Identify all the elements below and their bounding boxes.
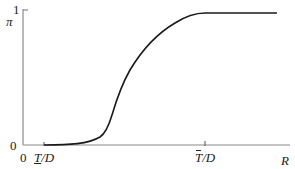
x-tick-label-0: 0 (20, 151, 27, 164)
t-lower-rest: /D (41, 150, 54, 165)
y-tick-label-0: 0 (10, 139, 17, 152)
chart-canvas (0, 0, 295, 169)
t-upper-rest: /D (202, 150, 215, 165)
y-axis-label: π (6, 15, 13, 28)
data-curve (44, 13, 277, 145)
y-tick-label-1: 1 (13, 3, 20, 16)
x-tick-label-t-upper: T/D (195, 151, 215, 164)
x-axis-label: R (281, 154, 289, 167)
t-upper-var: T (195, 151, 202, 164)
x-tick-label-t-lower: T/D (34, 151, 54, 164)
